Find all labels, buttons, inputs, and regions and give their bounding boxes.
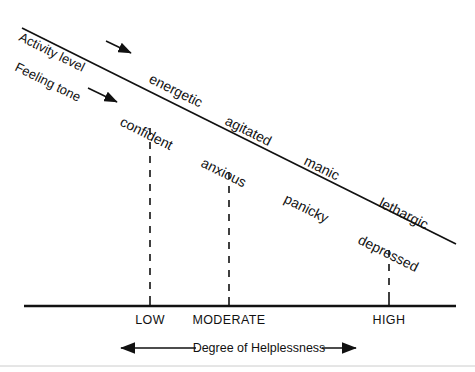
activity-term-manic: manic [302, 152, 343, 183]
activity-term-agitated: agitated [223, 112, 275, 149]
axis-label-low: LOW [135, 313, 165, 327]
activity-term-lethargic: lethargic [377, 194, 432, 232]
axis-label-high: HIGH [373, 313, 406, 327]
feeling-term-confident: confident [118, 113, 176, 153]
axis-caption-helplessness: Degree of Helplessness [193, 341, 326, 355]
axis-label-moderate: MODERATE [192, 313, 265, 327]
activity-level-arrow-icon [106, 41, 131, 53]
feeling-term-anxious: anxious [199, 154, 249, 190]
helplessness-diagram: Activity level Feeling tone energetic ag… [0, 0, 475, 372]
feeling-tone-arrow-icon [88, 88, 117, 102]
feeling-term-panicky: panicky [282, 190, 332, 225]
diagram-canvas: Activity level Feeling tone energetic ag… [0, 0, 475, 372]
